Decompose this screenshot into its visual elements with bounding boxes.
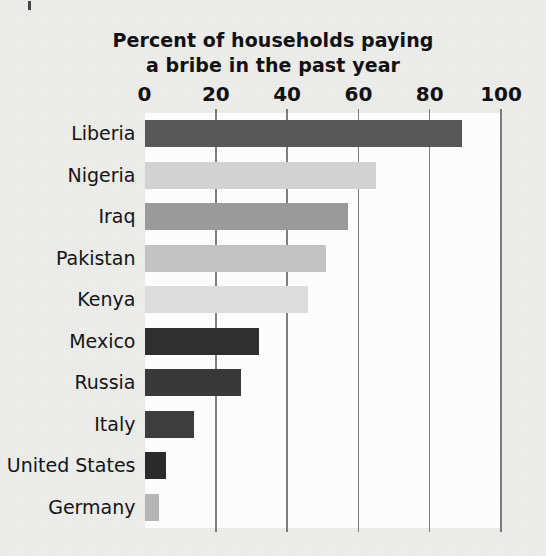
bar-row: Iraq	[145, 196, 502, 238]
bar-united-states	[145, 452, 166, 479]
bar-nigeria	[145, 162, 377, 189]
bar-row: Liberia	[145, 113, 502, 155]
bar-liberia	[145, 120, 462, 147]
category-label-liberia: Liberia	[71, 120, 135, 147]
chart-title-line-2: a bribe in the past year	[0, 53, 546, 78]
x-tick-label-80: 80	[416, 82, 444, 106]
bar-italy	[145, 411, 195, 438]
category-label-united-states: United States	[7, 452, 136, 479]
category-label-germany: Germany	[48, 494, 135, 521]
category-label-iraq: Iraq	[98, 203, 135, 230]
x-tick-label-60: 60	[344, 82, 372, 106]
bar-iraq	[145, 203, 348, 230]
bar-row: Italy	[145, 404, 502, 446]
bar-germany	[145, 494, 159, 521]
bar-row: Nigeria	[145, 155, 502, 197]
chart-title-line-1: Percent of households paying	[112, 29, 433, 51]
x-tick-label-100: 100	[480, 82, 522, 106]
bar-russia	[145, 369, 241, 396]
plot-area: LiberiaNigeriaIraqPakistanKenyaMexicoRus…	[145, 113, 502, 528]
category-label-mexico: Mexico	[69, 328, 135, 355]
category-label-russia: Russia	[74, 369, 135, 396]
chart-title: Percent of households paying a bribe in …	[0, 28, 546, 78]
bar-row: United States	[145, 445, 502, 487]
scan-artifact-speck	[28, 1, 31, 10]
bar-mexico	[145, 328, 259, 355]
bar-row: Kenya	[145, 279, 502, 321]
bar-row: Pakistan	[145, 238, 502, 280]
bar-row: Russia	[145, 362, 502, 404]
bar-row: Germany	[145, 487, 502, 529]
category-label-kenya: Kenya	[77, 286, 135, 313]
x-tick-label-0: 0	[138, 82, 152, 106]
category-label-italy: Italy	[94, 411, 135, 438]
category-label-nigeria: Nigeria	[68, 162, 136, 189]
bar-pakistan	[145, 245, 327, 272]
category-label-pakistan: Pakistan	[56, 245, 136, 272]
bar-row: Mexico	[145, 321, 502, 363]
bar-kenya	[145, 286, 309, 313]
x-tick-label-40: 40	[273, 82, 301, 106]
x-axis-tick-labels: 020406080100	[0, 82, 546, 110]
x-tick-label-20: 20	[202, 82, 230, 106]
